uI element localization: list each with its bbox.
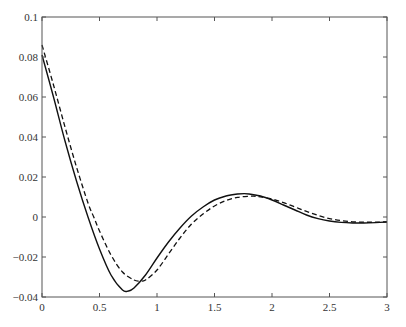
y-axis: −0.04−0.0200.020.040.060.080.1 xyxy=(13,11,387,303)
y-tick-label: 0.08 xyxy=(19,51,39,63)
x-tick-label: 2 xyxy=(269,301,275,313)
y-tick-label: −0.04 xyxy=(13,291,39,303)
x-tick-label: 1 xyxy=(154,301,160,313)
x-tick-label: 3 xyxy=(384,301,390,313)
series-solid-line xyxy=(42,55,387,292)
x-tick-label: 2.5 xyxy=(323,301,337,313)
x-tick-label: 0.5 xyxy=(93,301,107,313)
y-tick-label: 0 xyxy=(33,211,39,223)
x-tick-label: 1.5 xyxy=(208,301,222,313)
line-chart: 00.511.522.53 −0.04−0.0200.020.040.060.0… xyxy=(0,0,406,327)
y-tick-label: 0.06 xyxy=(19,91,39,103)
y-tick-label: 0.1 xyxy=(24,11,38,23)
x-tick-label: 0 xyxy=(39,301,45,313)
y-tick-label: 0.02 xyxy=(19,171,38,183)
plot-curves xyxy=(42,45,387,292)
axes-frame xyxy=(42,17,387,297)
y-tick-label: −0.02 xyxy=(13,251,38,263)
y-tick-label: 0.04 xyxy=(19,131,39,143)
series-dashed-line xyxy=(42,45,387,281)
x-axis: 00.511.522.53 xyxy=(39,17,390,313)
